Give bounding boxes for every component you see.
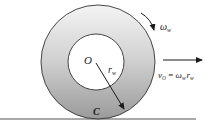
angular-velocity-label: ωw xyxy=(160,21,171,33)
contact-point-label: C xyxy=(93,106,100,117)
center-label: O xyxy=(84,54,92,66)
velocity-equation: vO = ωwrw xyxy=(158,70,194,81)
wheel-inner-hub xyxy=(68,34,124,90)
rolling-wheel-diagram: O rw C ωw vO = ωwrw xyxy=(0,0,212,125)
